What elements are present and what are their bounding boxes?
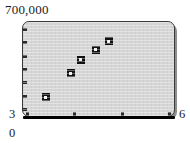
x-axis-max-label: 6 — [179, 107, 185, 122]
plot-panel — [22, 21, 175, 117]
y-axis-min-label: 3 — [9, 107, 15, 122]
data-point — [67, 69, 75, 77]
x-axis-baseline — [23, 116, 175, 119]
y-axis-tick — [23, 55, 27, 58]
y-axis-tick — [23, 95, 27, 98]
y-axis-tick — [23, 28, 27, 31]
y-axis-tick — [23, 41, 27, 44]
y-axis-tick — [23, 68, 27, 71]
y-axis-tick — [23, 81, 27, 84]
origin-label: 0 — [9, 126, 15, 141]
scatter-plot-figure: 700,000 3 6 0 — [0, 0, 190, 150]
data-point — [105, 37, 113, 45]
data-point — [92, 46, 100, 54]
y-axis-tick — [23, 108, 27, 111]
data-point — [42, 93, 50, 101]
data-point — [77, 56, 85, 64]
y-axis-max-label: 700,000 — [5, 2, 49, 18]
